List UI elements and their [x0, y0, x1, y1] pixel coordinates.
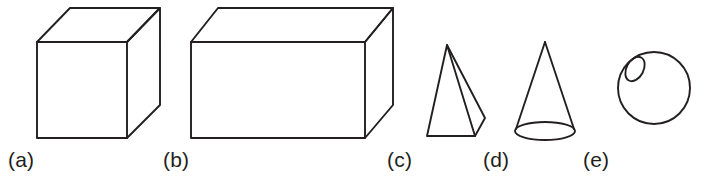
cone-left-edge: [516, 42, 545, 129]
shape-cone: [515, 42, 575, 140]
prism-top-face: [191, 8, 393, 42]
caption-row: (a) (b) (c) (d) (e): [0, 146, 714, 186]
caption-d: (d): [483, 146, 509, 174]
prism-front-face: [191, 42, 365, 138]
prism-right-face: [365, 8, 393, 138]
cone-right-edge: [545, 42, 574, 129]
caption-a: (a): [8, 146, 34, 174]
caption-b: (b): [163, 146, 189, 174]
sphere-highlight-ellipse: [621, 54, 648, 85]
shape-sphere: [618, 52, 690, 124]
cube-front-face: [37, 42, 127, 138]
cube-right-face: [127, 8, 160, 138]
shape-pyramid: [427, 45, 485, 136]
caption-c: (c): [387, 146, 412, 174]
cube-top-face: [37, 8, 160, 42]
pyramid-right-face: [447, 45, 485, 136]
shape-rectangular-prism: [191, 8, 393, 138]
shape-cube: [37, 8, 160, 138]
pyramid-front-face: [427, 45, 475, 136]
caption-e: (e): [583, 146, 609, 174]
cone-base-ellipse: [515, 122, 575, 140]
solids-figure: (a) (b) (c) (d) (e): [0, 0, 714, 186]
